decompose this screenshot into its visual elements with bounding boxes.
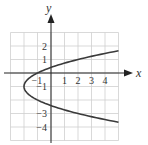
y-tick-label: −3 xyxy=(36,108,47,119)
y-axis-arrow-icon xyxy=(48,14,55,23)
y-tick-label: 1 xyxy=(42,54,47,65)
chart: x y −1123421−1−3−4 xyxy=(0,0,148,145)
x-axis-arrow-icon xyxy=(124,70,133,77)
y-tick-label: −4 xyxy=(36,122,47,133)
x-tick-label: 1 xyxy=(62,75,67,86)
x-axis-label: x xyxy=(135,66,142,80)
x-tick-label: 4 xyxy=(103,75,108,86)
y-axis-label: y xyxy=(45,1,52,15)
axes: x y xyxy=(4,1,142,143)
y-tick-label: −1 xyxy=(36,81,47,92)
x-tick-label: 2 xyxy=(76,75,81,86)
grid xyxy=(11,33,119,141)
x-tick-label: 3 xyxy=(89,75,94,86)
y-tick-label: 2 xyxy=(42,41,47,52)
